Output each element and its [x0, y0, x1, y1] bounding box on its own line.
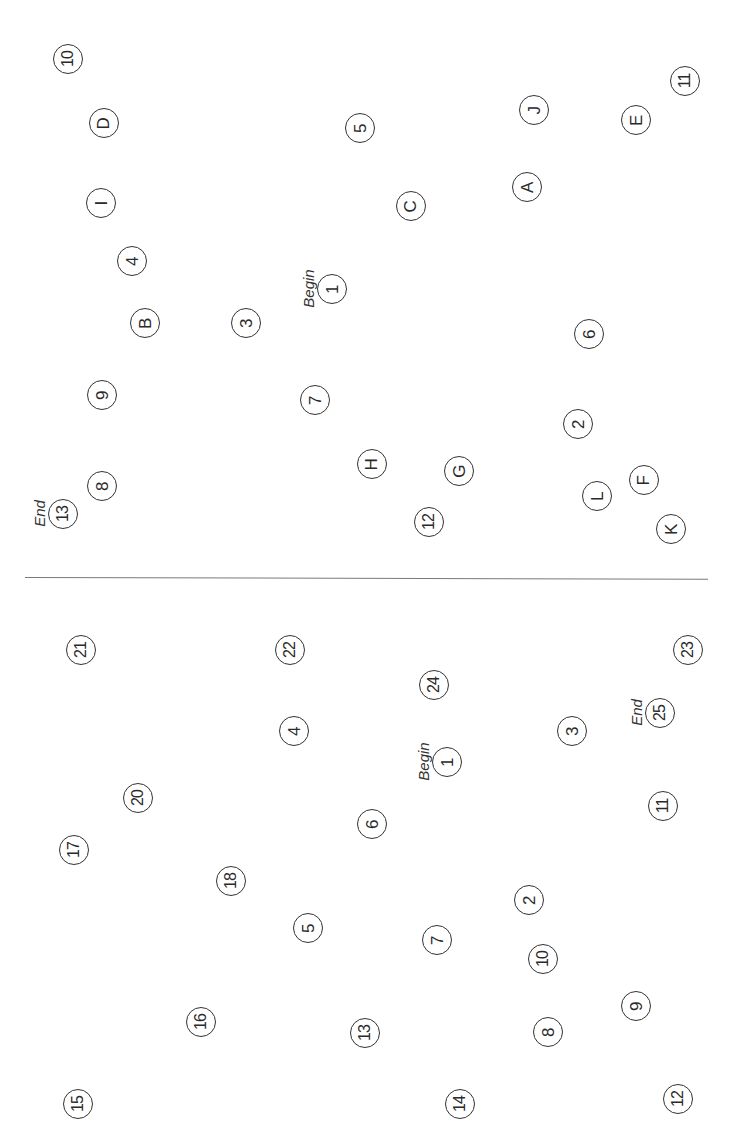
part-a-node-1[interactable]: 1	[432, 747, 462, 777]
part-b-node-3[interactable]: 3	[231, 308, 261, 338]
node-label: 4	[286, 727, 303, 736]
part-a-node-24[interactable]: 24	[419, 670, 449, 700]
node-label: 2	[521, 896, 538, 905]
node-label: 12	[421, 514, 437, 530]
node-label: 24	[426, 677, 442, 693]
part-a-node-2[interactable]: 2	[514, 885, 544, 915]
node-label: 3	[564, 727, 581, 736]
node-label: A	[519, 182, 536, 193]
node-label: 13	[55, 506, 71, 522]
node-label: G	[450, 465, 467, 478]
part-b-node-L[interactable]: L	[582, 481, 612, 511]
node-label: 4	[124, 257, 141, 266]
node-label: 7	[307, 396, 324, 405]
part-b-node-4[interactable]: 4	[117, 246, 147, 276]
node-label: 11	[677, 74, 693, 89]
part-a-node-4[interactable]: 4	[279, 716, 309, 746]
part-b-node-8[interactable]: 8	[87, 471, 117, 501]
trail-making-sheet: 1BeginA2B3C4D5E6F7G8H9I10J11K12L13End 1B…	[0, 0, 730, 1147]
part-b-node-13[interactable]: 13	[48, 499, 78, 529]
part-a-node-10[interactable]: 10	[528, 944, 558, 974]
part-b-node-10[interactable]: 10	[53, 44, 83, 74]
part-b-node-9[interactable]: 9	[87, 380, 117, 410]
part-a-node-23[interactable]: 23	[673, 635, 703, 665]
part-b-node-F[interactable]: F	[629, 465, 659, 495]
node-label: B	[137, 318, 154, 329]
part-b-node-D[interactable]: D	[89, 108, 119, 138]
node-label: J	[526, 106, 543, 114]
node-label: D	[96, 117, 113, 129]
end-label: End	[31, 499, 48, 529]
node-label: 5	[352, 124, 369, 133]
part-a-node-5[interactable]: 5	[293, 913, 323, 943]
node-label: 10	[60, 51, 76, 67]
node-label: 8	[540, 1028, 557, 1037]
node-label: 9	[94, 391, 111, 400]
part-a-node-6[interactable]: 6	[357, 809, 387, 839]
node-label: I	[92, 201, 109, 205]
part-a-node-13[interactable]: 13	[350, 1018, 380, 1048]
end-label: End	[628, 698, 645, 728]
part-b-node-J[interactable]: J	[519, 95, 549, 125]
part-a-node-25[interactable]: 25	[645, 698, 675, 728]
part-a-node-7[interactable]: 7	[422, 925, 452, 955]
node-label: 11	[655, 799, 671, 814]
part-a-node-3[interactable]: 3	[557, 716, 587, 746]
section-divider	[25, 577, 708, 580]
node-label: L	[589, 492, 606, 501]
node-label: 23	[680, 642, 696, 658]
node-label: 7	[429, 936, 446, 945]
node-label: 1	[324, 285, 341, 294]
part-a-node-17[interactable]: 17	[59, 835, 89, 865]
node-label: 21	[73, 642, 89, 658]
part-b-node-2[interactable]: 2	[563, 409, 593, 439]
node-label: 8	[94, 482, 111, 491]
node-label: 6	[364, 820, 381, 829]
node-label: 17	[66, 842, 82, 858]
node-label: C	[403, 200, 420, 212]
begin-label: Begin	[415, 740, 432, 784]
part-a-node-9[interactable]: 9	[621, 991, 651, 1021]
part-a-node-20[interactable]: 20	[123, 783, 153, 813]
part-b-node-11[interactable]: 11	[670, 66, 700, 96]
node-label: E	[628, 115, 645, 126]
node-label: 20	[130, 790, 146, 806]
node-label: 2	[570, 420, 587, 429]
node-label: 13	[357, 1025, 373, 1041]
part-a-node-16[interactable]: 16	[186, 1007, 216, 1037]
part-a-node-22[interactable]: 22	[275, 635, 305, 665]
node-label: 1	[439, 758, 456, 767]
node-label: 15	[70, 1096, 86, 1112]
part-b-node-I[interactable]: I	[86, 188, 116, 218]
part-b-node-7[interactable]: 7	[300, 385, 330, 415]
node-label: 16	[193, 1014, 209, 1030]
node-label: F	[635, 475, 652, 485]
node-label: 3	[238, 319, 255, 328]
node-label: 12	[670, 1091, 686, 1107]
part-b-node-A[interactable]: A	[512, 172, 542, 202]
part-a-node-8[interactable]: 8	[533, 1017, 563, 1047]
part-a-node-14[interactable]: 14	[445, 1089, 475, 1119]
part-b-node-B[interactable]: B	[130, 308, 160, 338]
node-label: 5	[300, 924, 317, 933]
part-b-node-G[interactable]: G	[444, 456, 474, 486]
part-b-node-12[interactable]: 12	[414, 507, 444, 537]
node-label: H	[364, 458, 381, 470]
node-label: 25	[652, 705, 668, 721]
part-a-node-11[interactable]: 11	[648, 791, 678, 821]
node-label: 14	[452, 1096, 468, 1112]
part-b-node-1[interactable]: 1	[317, 274, 347, 304]
part-a-node-12[interactable]: 12	[663, 1084, 693, 1114]
part-a-node-21[interactable]: 21	[66, 635, 96, 665]
part-b-node-H[interactable]: H	[357, 449, 387, 479]
part-b-node-E[interactable]: E	[621, 105, 651, 135]
part-b-node-K[interactable]: K	[656, 514, 686, 544]
node-label: K	[663, 524, 680, 535]
part-b-node-C[interactable]: C	[396, 191, 426, 221]
part-a-node-15[interactable]: 15	[63, 1089, 93, 1119]
part-a-node-18[interactable]: 18	[216, 866, 246, 896]
part-b-node-6[interactable]: 6	[574, 319, 604, 349]
node-label: 10	[535, 951, 551, 967]
part-b-node-5[interactable]: 5	[345, 113, 375, 143]
node-label: 18	[223, 873, 239, 889]
